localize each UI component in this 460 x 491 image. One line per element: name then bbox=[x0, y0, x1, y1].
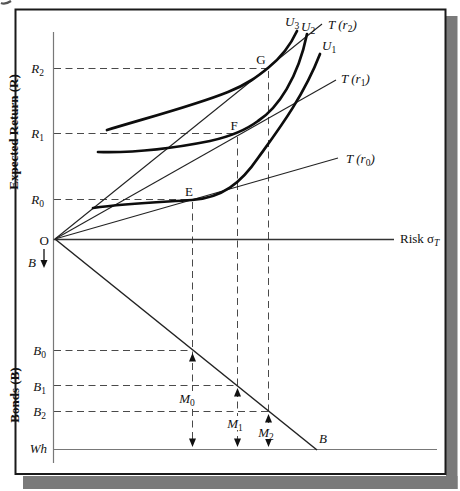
origin-label: O bbox=[40, 233, 49, 248]
tobin-portfolio-diagram: Expected Return (R) Bonds (B) Risk σT O … bbox=[0, 0, 460, 491]
point-label-f: F bbox=[230, 118, 237, 133]
x-axis-label-sub: T bbox=[434, 238, 440, 248]
bonds-line-label: B bbox=[319, 431, 327, 446]
point-label-e: E bbox=[185, 184, 193, 199]
line-label-t-r0: T (r0) bbox=[346, 151, 375, 168]
frame-shadow-bottom bbox=[23, 476, 458, 489]
y-axis-upper-title: Expected Return (R) bbox=[6, 74, 21, 190]
figure-frame bbox=[16, 10, 446, 475]
line-label-t-r1: T (r1) bbox=[341, 71, 370, 88]
x-axis-label: Risk σT bbox=[400, 231, 440, 248]
x-axis-label-text: Risk σ bbox=[400, 231, 434, 246]
point-label-g: G bbox=[256, 52, 265, 67]
frame-shadow-right bbox=[446, 16, 458, 489]
line-label-t-r2: T (r2) bbox=[328, 17, 357, 34]
y-axis-lower-title: Bonds (B) bbox=[7, 367, 22, 422]
tick-label-wealth: Wh bbox=[30, 441, 47, 456]
bonds-axis-arrow-label: B bbox=[28, 255, 36, 270]
